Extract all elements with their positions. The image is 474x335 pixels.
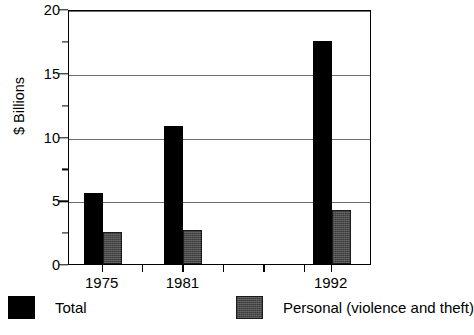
x-tick-label-1981: 1981: [166, 275, 199, 290]
y-tick-major: [59, 73, 68, 74]
bar-1975-total: [84, 193, 103, 264]
x-tick: [223, 264, 224, 272]
y-tick-label: 20: [44, 3, 60, 18]
gridline: [69, 11, 370, 12]
y-tick-label: 10: [44, 130, 60, 145]
bar-1981-personal: [183, 230, 202, 264]
y-tick-major: [59, 264, 68, 265]
x-tick-label-1975: 1975: [85, 275, 118, 290]
bar-1992-personal: [332, 210, 351, 264]
y-axis-title: $ Billions: [11, 51, 27, 161]
y-tick-major: [59, 9, 68, 10]
bar-1981-total: [164, 126, 183, 264]
legend-item-total: Total: [8, 296, 87, 319]
y-tick-label: 0: [52, 258, 60, 273]
x-tick: [304, 264, 305, 272]
gray-square-swatch: [236, 296, 263, 319]
x-tick-label-1992: 1992: [314, 275, 347, 290]
black-square-swatch: [8, 296, 35, 319]
x-tick: [102, 264, 103, 272]
y-tick-major: [59, 201, 68, 202]
y-tick-label: 5: [52, 194, 60, 209]
legend-label: Personal (violence and theft): [283, 300, 474, 315]
bar-1975-personal: [103, 232, 122, 264]
y-tick-label: 15: [44, 67, 60, 82]
chart-legend: TotalPersonal (violence and theft): [0, 296, 468, 332]
y-axis: $ Billions 05101520: [0, 0, 68, 275]
legend-item-personal: Personal (violence and theft): [236, 296, 474, 319]
y-tick-major: [59, 137, 68, 138]
plot-area: [68, 10, 371, 265]
bar-1992-total: [313, 41, 332, 264]
x-tick: [142, 264, 143, 272]
x-tick: [331, 264, 332, 272]
x-tick: [263, 264, 264, 272]
x-tick: [182, 264, 183, 272]
legend-label: Total: [55, 300, 87, 315]
